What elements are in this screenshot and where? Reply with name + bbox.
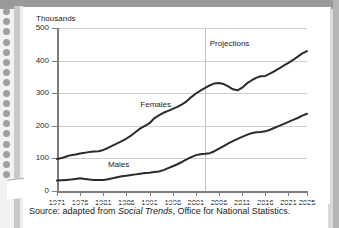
binding-hole [3,110,10,117]
binding-hole [3,28,10,35]
binding-hole [3,161,10,168]
binding-hole [3,141,10,148]
binding-hole [3,130,10,137]
y-tick-label: 200 [36,122,49,130]
binding-hole [3,59,10,66]
source-caption: Source: adapted from Social Trends, Offi… [29,206,290,216]
y-axis-title: Thousands [36,14,76,23]
binding-hole [3,49,10,56]
binding-hole [3,69,10,76]
binding-hole [3,120,10,127]
source-prefix: Source: adapted from [29,206,118,216]
binding-hole [3,90,10,97]
y-tick-label: 0 [45,187,49,195]
source-suffix: , Office for National Statistics. [172,206,290,216]
annotation-females: Females [140,100,171,109]
y-tick-label: 100 [36,154,49,162]
binding-hole [3,100,10,107]
series-line-males [57,114,307,181]
annotation-males: Males [108,160,129,169]
binding-hole [3,171,10,178]
binding-hole [3,151,10,158]
plot-area: 0100200300400500 19711976198119861991199… [57,28,307,191]
binding-hole [3,8,10,15]
y-tick-label: 500 [36,24,49,32]
y-tick-label: 400 [36,57,49,65]
source-divider [24,202,324,203]
annotation-projections: Projections [210,39,250,48]
spiral-binding-holes [2,8,14,188]
source-publication: Social Trends [118,206,172,216]
y-tick-label: 300 [36,89,49,97]
binding-hole [3,79,10,86]
binding-hole [3,18,10,25]
binding-hole [3,39,10,46]
series-lines [57,28,309,192]
page-right-edge [333,0,339,228]
series-line-females [57,51,307,159]
line-chart: Thousands 0100200300400500 1971197619811… [24,8,330,204]
